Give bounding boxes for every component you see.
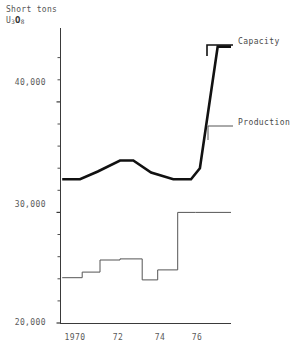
chart-container: Short tons U3O8 40,000 30,000 20,000 197… [0,0,295,355]
chart-plot-svg [0,0,295,355]
legend-leader-production [208,126,233,140]
y-axis-ticks [57,58,61,323]
series-line-production [62,212,231,280]
series-line-capacity [62,47,231,180]
